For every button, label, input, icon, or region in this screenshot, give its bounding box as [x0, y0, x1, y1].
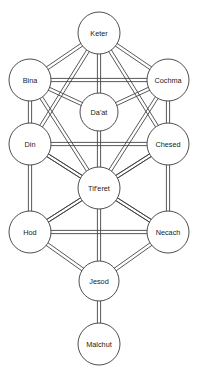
edge-bina-cochma [51, 78, 148, 81]
edge-keter-bina [46, 43, 83, 69]
edge-cochma-chesed [166, 101, 169, 124]
edge-jesod-malchut [97, 301, 100, 324]
node-jesod[interactable]: Jesod [79, 261, 119, 301]
edge-line [114, 243, 150, 269]
node-layer: KeterBinaCochmaDa'atDinChesedTif'eretHod… [9, 12, 189, 365]
edge-keter-daat [97, 54, 100, 94]
edge-keter-cochma [115, 43, 152, 69]
edge-hod-necach [51, 230, 148, 233]
node-circle-din[interactable] [9, 123, 51, 165]
node-chesed[interactable]: Chesed [147, 123, 189, 165]
node-circle-jesod[interactable] [79, 261, 119, 301]
node-circle-necach[interactable] [147, 211, 189, 253]
node-circle-hod[interactable] [9, 211, 51, 253]
node-circle-chesed[interactable] [147, 123, 189, 165]
node-hod[interactable]: Hod [9, 211, 51, 253]
edge-bina-din [28, 101, 31, 124]
node-malchut[interactable]: Malchut [78, 323, 120, 365]
node-din[interactable]: Din [9, 123, 51, 165]
edge-din-chesed [51, 142, 148, 145]
edge-line [48, 243, 84, 269]
edge-tiferet-necach [116, 198, 152, 223]
node-daat[interactable]: Da'at [80, 93, 118, 131]
node-circle-bina[interactable] [9, 59, 51, 101]
edge-daat-tiferet [97, 131, 100, 168]
node-circle-cochma[interactable] [147, 59, 189, 101]
edge-line [48, 200, 82, 222]
edge-line [47, 198, 81, 220]
tree-of-life-canvas: KeterBinaCochmaDa'atDinChesedTif'eretHod… [0, 0, 198, 373]
node-circle-keter[interactable] [78, 12, 120, 54]
node-tiferet[interactable]: Tif'eret [78, 167, 120, 209]
edge-line [117, 43, 152, 67]
edge-necach-jesod [114, 243, 152, 271]
edge-line [46, 43, 81, 67]
edge-chesed-necach [166, 165, 169, 212]
edge-din-hod [28, 165, 31, 212]
edge-line [117, 198, 151, 220]
edge-hod-jesod [46, 243, 84, 271]
node-bina[interactable]: Bina [9, 59, 51, 101]
node-circle-malchut[interactable] [78, 323, 120, 365]
edge-line [116, 200, 150, 222]
node-keter[interactable]: Keter [78, 12, 120, 54]
node-circle-daat[interactable] [80, 93, 118, 131]
edge-line [46, 245, 82, 271]
node-circle-tiferet[interactable] [78, 167, 120, 209]
node-cochma[interactable]: Cochma [147, 59, 189, 101]
edge-tiferet-jesod [97, 209, 100, 262]
edge-tiferet-hod [47, 198, 83, 223]
node-necach[interactable]: Necach [147, 211, 189, 253]
edge-line [116, 245, 152, 271]
edge-line [115, 46, 150, 70]
edge-line [48, 46, 83, 70]
tree-of-life-diagram: KeterBinaCochmaDa'atDinChesedTif'eretHod… [0, 0, 198, 373]
